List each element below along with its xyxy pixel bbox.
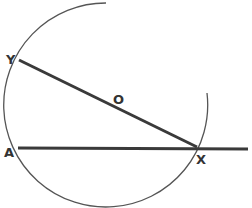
line-ax [18, 148, 248, 149]
label-o: O [113, 92, 124, 107]
diameter-line-yx [19, 60, 197, 147]
label-a: A [4, 145, 14, 160]
label-y: Y [5, 52, 16, 67]
circle-arc [4, 3, 208, 207]
geometry-diagram: Y O A X [0, 0, 252, 208]
label-x: X [196, 152, 206, 167]
